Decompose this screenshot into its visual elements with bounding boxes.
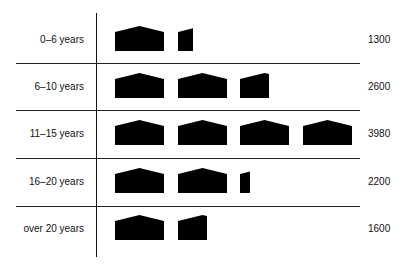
house-icon xyxy=(303,120,352,145)
chart-row: 16–20 years2200 xyxy=(0,168,405,215)
house-icon xyxy=(240,120,289,145)
category-label: 0–6 years xyxy=(40,34,84,45)
house-icon xyxy=(178,168,227,193)
category-label: over 20 years xyxy=(23,223,84,234)
category-label: 11–15 years xyxy=(30,128,84,139)
house-icon xyxy=(178,215,207,240)
house-icon xyxy=(115,120,164,145)
category-label: 6–10 years xyxy=(35,81,84,92)
chart-row: 0–6 years1300 xyxy=(0,26,405,73)
value-label: 2600 xyxy=(368,81,390,92)
house-icon xyxy=(115,215,164,240)
value-label: 1300 xyxy=(368,34,390,45)
house-icon xyxy=(178,73,227,98)
house-icon xyxy=(240,168,250,193)
category-label: 16–20 years xyxy=(29,176,84,187)
chart-row: 11–15 years3980 xyxy=(0,120,405,167)
house-icon xyxy=(115,73,164,98)
house-icon xyxy=(115,26,164,51)
chart-row: over 20 years1600 xyxy=(0,215,405,262)
value-label: 3980 xyxy=(368,128,390,139)
house-icon xyxy=(178,120,227,145)
house-icon xyxy=(178,26,193,51)
value-label: 2200 xyxy=(368,176,390,187)
chart-row: 6–10 years2600 xyxy=(0,73,405,120)
house-icon xyxy=(240,73,269,98)
value-label: 1600 xyxy=(368,223,390,234)
house-icon xyxy=(115,168,164,193)
